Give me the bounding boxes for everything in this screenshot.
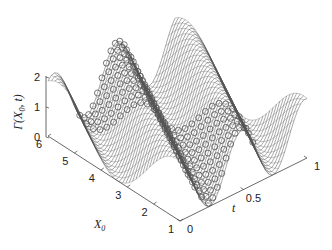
mesh-line [72, 32, 199, 140]
tick-mark [304, 156, 307, 158]
x0-axis-line [48, 136, 180, 221]
tick-mark [241, 188, 244, 190]
x0-axis-label: X0 [93, 217, 105, 233]
mesh-line [156, 50, 288, 153]
t-tick-label: 0.5 [246, 192, 261, 204]
x0-tick-label: 4 [89, 172, 95, 184]
z-tick-label: 1 [34, 101, 40, 113]
tick-mark [177, 219, 180, 221]
x0-tick-label: 2 [142, 206, 148, 218]
x0-tick-label: 5 [62, 155, 68, 167]
tick-mark [46, 137, 49, 138]
tick-mark [46, 77, 49, 78]
tick-mark [154, 202, 157, 204]
z-axis-label: Γ(X0, t) [11, 94, 27, 131]
z-tick-label: 0 [34, 131, 40, 143]
x0-tick-label: 3 [115, 189, 121, 201]
t-tick-label: 0 [187, 223, 193, 235]
surface-plot: 12345600.51012 Γ(X0, t) X0 t [0, 0, 332, 250]
t-tick-label: 1 [314, 160, 320, 172]
z-tick-label: 2 [34, 71, 40, 83]
surface-mesh [48, 18, 307, 207]
mesh-line [64, 82, 196, 190]
tick-mark [74, 151, 77, 153]
tick-mark [46, 107, 49, 108]
mesh-line [175, 18, 307, 121]
tick-mark [127, 185, 130, 187]
t-axis-label: t [232, 201, 236, 215]
tick-mark [48, 134, 51, 136]
x0-tick-label: 1 [168, 223, 174, 235]
mesh-line [172, 23, 304, 126]
tick-mark [101, 168, 104, 170]
